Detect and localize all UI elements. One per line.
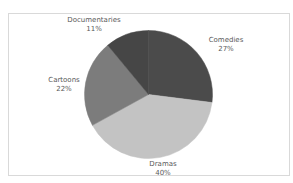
data-label-cartoons: Cartoons22% <box>48 76 79 94</box>
slice-percent: 40% <box>149 169 176 178</box>
slice-percent: 22% <box>48 85 79 94</box>
slice-name: Dramas <box>149 160 176 169</box>
slice-name: Cartoons <box>48 76 79 85</box>
slice-name: Documentaries <box>67 16 120 25</box>
slice-percent: 27% <box>209 45 244 54</box>
data-label-comedies: Comedies27% <box>209 36 244 54</box>
slice-name: Comedies <box>209 36 244 45</box>
pie-slice-comedies <box>149 31 213 103</box>
pie-chart <box>0 0 293 183</box>
data-label-documentaries: Documentaries11% <box>67 16 120 34</box>
data-label-dramas: Dramas40% <box>149 160 176 178</box>
slice-percent: 11% <box>67 25 120 34</box>
